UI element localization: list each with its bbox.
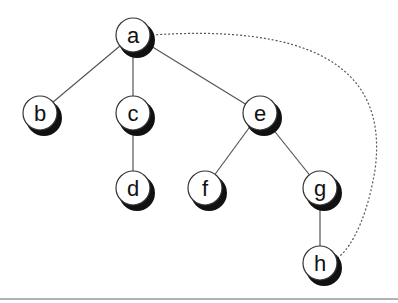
svg-text:a: a bbox=[127, 23, 140, 48]
node-g: g bbox=[303, 171, 342, 211]
node-a: a bbox=[116, 18, 155, 58]
svg-text:d: d bbox=[127, 176, 139, 201]
tree-diagram: a b c e d f g h bbox=[0, 0, 398, 303]
node-c: c bbox=[116, 96, 155, 136]
edge-a-b bbox=[40, 35, 133, 113]
svg-text:g: g bbox=[314, 176, 326, 201]
svg-text:b: b bbox=[34, 101, 46, 126]
svg-text:h: h bbox=[314, 251, 326, 276]
node-b: b bbox=[23, 96, 62, 136]
svg-text:f: f bbox=[202, 176, 209, 201]
node-e: e bbox=[243, 96, 282, 136]
svg-text:e: e bbox=[254, 101, 266, 126]
node-h: h bbox=[303, 246, 342, 286]
node-f: f bbox=[188, 171, 227, 211]
svg-text:c: c bbox=[128, 101, 139, 126]
edges bbox=[40, 35, 320, 263]
node-d: d bbox=[116, 171, 155, 211]
